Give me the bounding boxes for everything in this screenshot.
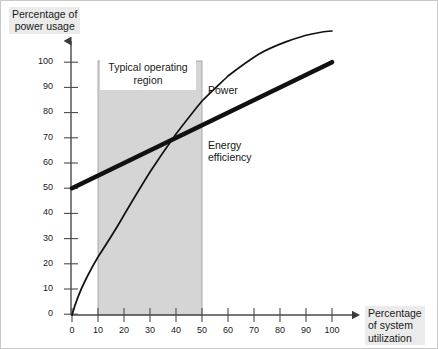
x-axis-title-line1: Percentage (368, 307, 422, 319)
y-axis-title: Percentage ofpower usage (9, 7, 80, 34)
region-label-line2: region (133, 74, 162, 86)
series-label-energy-line2: efficiency (208, 151, 252, 163)
x-axis-title-line2: of system (368, 319, 413, 331)
x-tick-label-90: 90 (296, 325, 316, 336)
x-tick-label-20: 20 (114, 325, 134, 336)
y-tick-label-100: 100 (31, 56, 53, 67)
x-tick-label-10: 10 (88, 325, 108, 336)
x-tick-label-50: 50 (192, 325, 212, 336)
y-tick-label-60: 60 (31, 157, 53, 168)
y-axis-title-line1: Percentage of (12, 8, 77, 20)
y-tick-label-0: 0 (31, 308, 53, 319)
chart-figure: Percentage ofpower usage Percentageof sy… (0, 0, 438, 349)
typical-operating-region-label: Typical operatingregion (100, 57, 196, 90)
y-tick-label-20: 20 (31, 258, 53, 269)
y-tick-label-40: 40 (31, 207, 53, 218)
x-axis-title-line3: utilization (368, 332, 412, 344)
typical-operating-region-shade (98, 61, 202, 315)
y-tick-label-70: 70 (31, 132, 53, 143)
y-axis-title-line2: power usage (15, 20, 75, 32)
chart-plot-area (1, 1, 438, 349)
x-tick-label-70: 70 (244, 325, 264, 336)
y-tick-label-50: 50 (31, 182, 53, 193)
x-tick-label-100: 100 (322, 325, 342, 336)
series-label-power: Power (208, 84, 238, 96)
region-label-line1: Typical operating (108, 61, 187, 73)
y-tick-label-90: 90 (31, 81, 53, 92)
y-tick-label-30: 30 (31, 233, 53, 244)
x-tick-label-40: 40 (166, 325, 186, 336)
y-tick-label-10: 10 (31, 283, 53, 294)
series-label-energy-efficiency: Energyefficiency (208, 139, 252, 164)
series-label-energy-line1: Energy (208, 139, 241, 151)
x-tick-label-60: 60 (218, 325, 238, 336)
y-tick-label-80: 80 (31, 106, 53, 117)
x-tick-label-80: 80 (270, 325, 290, 336)
x-tick-label-0: 0 (62, 325, 82, 336)
x-axis-title: Percentageof systemutilization (365, 306, 425, 345)
x-tick-label-30: 30 (140, 325, 160, 336)
